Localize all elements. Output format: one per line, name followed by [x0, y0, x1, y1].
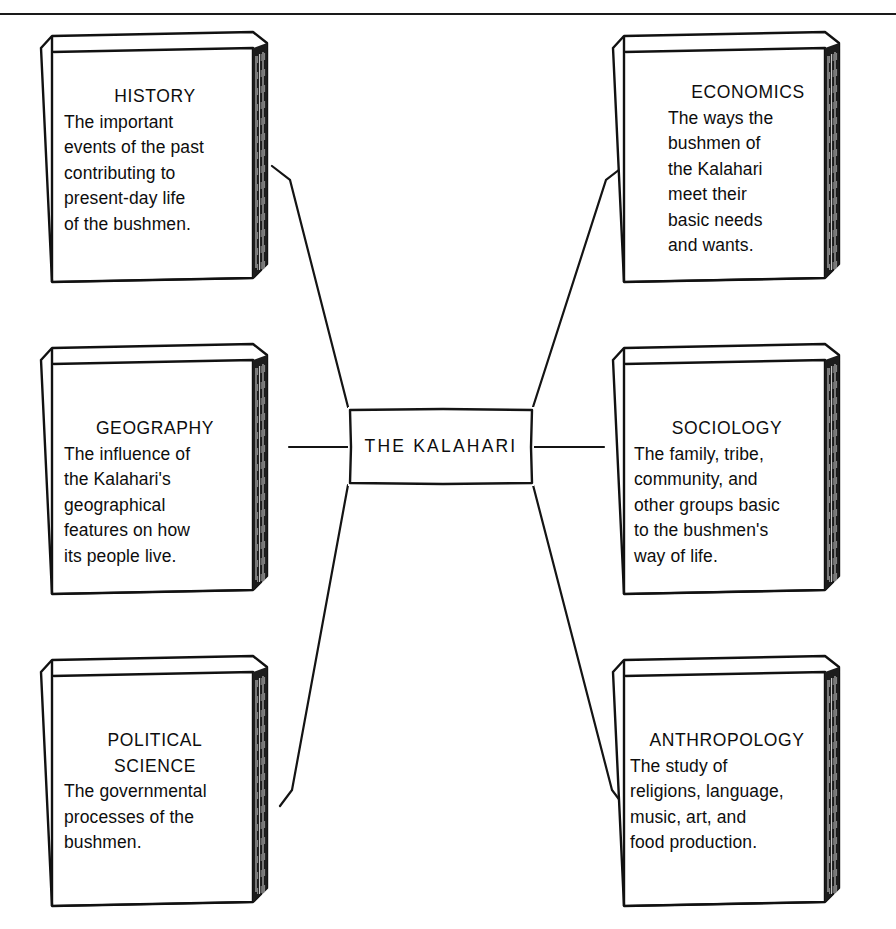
book-text-political-science: POLITICAL SCIENCEThe governmental proces… [64, 728, 246, 856]
book-text-economics: ECONOMICSThe ways the bushmen of the Kal… [668, 80, 828, 259]
book-body-anthropology: The study of religions, language, music,… [630, 756, 784, 853]
book-title-economics: ECONOMICS [668, 80, 828, 106]
book-history[interactable]: HISTORYThe important events of the past … [38, 26, 288, 304]
book-text-anthropology: ANTHROPOLOGYThe study of religions, lang… [630, 728, 824, 856]
book-body-political-science: The governmental processes of the bushme… [64, 781, 207, 852]
book-anthropology[interactable]: ANTHROPOLOGYThe study of religions, lang… [610, 650, 860, 928]
book-title-history: HISTORY [64, 84, 246, 110]
book-body-geography: The influence of the Kalahari's geograph… [64, 444, 190, 566]
book-body-economics: The ways the bushmen of the Kalahari mee… [668, 108, 773, 256]
book-geography[interactable]: GEOGRAPHYThe influence of the Kalahari's… [38, 338, 288, 616]
book-title-sociology: SOCIOLOGY [634, 416, 820, 442]
book-economics[interactable]: ECONOMICSThe ways the bushmen of the Kal… [610, 26, 860, 304]
book-text-history: HISTORYThe important events of the past … [64, 84, 246, 237]
book-sociology[interactable]: SOCIOLOGYThe family, tribe, community, a… [610, 338, 860, 616]
book-title-anthropology: ANTHROPOLOGY [630, 728, 824, 754]
book-title-political-science: POLITICAL SCIENCE [64, 728, 246, 779]
book-body-history: The important events of the past contrib… [64, 112, 204, 234]
header-divider [0, 13, 896, 15]
book-title-geography: GEOGRAPHY [64, 416, 246, 442]
book-body-sociology: The family, tribe, community, and other … [634, 444, 780, 566]
connector-political-science [280, 485, 348, 806]
center-node-label: THE KALAHARI [365, 436, 518, 457]
concept-map-page: HISTORYThe important events of the past … [0, 0, 896, 929]
book-political-science[interactable]: POLITICAL SCIENCEThe governmental proces… [38, 650, 288, 928]
book-text-geography: GEOGRAPHYThe influence of the Kalahari's… [64, 416, 246, 569]
center-node[interactable]: THE KALAHARI [348, 407, 534, 486]
book-text-sociology: SOCIOLOGYThe family, tribe, community, a… [634, 416, 820, 569]
